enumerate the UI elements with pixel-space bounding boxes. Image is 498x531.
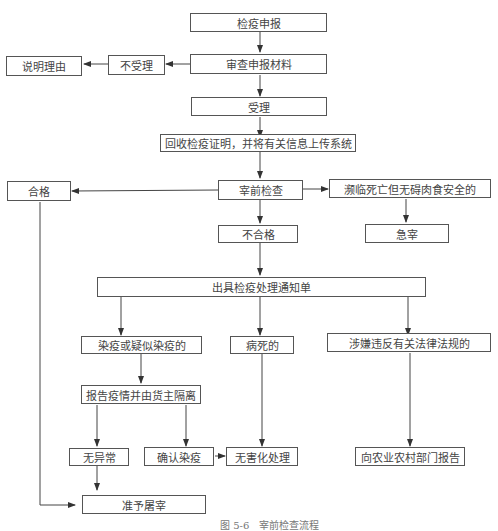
- node-label: 病死的: [246, 337, 279, 353]
- node-near-death: 濒临死亡但无碍肉食安全的: [329, 179, 491, 198]
- node-label: 出具检疫处理通知单: [212, 279, 311, 295]
- node-review: 审查申报材料: [190, 54, 327, 74]
- node-label: 急宰: [396, 226, 418, 242]
- node-notice: 出具检疫处理通知单: [97, 277, 426, 297]
- node-label: 染疫或疑似染疫的: [98, 337, 186, 353]
- node-illegal: 涉嫌违反有关法律法规的: [327, 333, 491, 352]
- node-report-isolate: 报告疫情并由货主隔离: [81, 385, 201, 404]
- node-qualified: 合格: [7, 181, 71, 201]
- node-unqualified: 不合格: [218, 225, 298, 243]
- node-recycle: 回收检疫证明，并将有关信息上传系统: [160, 134, 356, 152]
- node-label: 不受理: [120, 57, 153, 73]
- node-label: 受理: [248, 99, 270, 115]
- node-harmless: 无害化处理: [226, 447, 298, 466]
- node-label: 濒临死亡但无碍肉食安全的: [344, 181, 476, 197]
- node-normal: 无异常: [69, 448, 129, 466]
- node-declare: 检疫申报: [190, 13, 327, 32]
- node-label: 检疫申报: [237, 15, 281, 31]
- node-accept: 受理: [191, 97, 327, 116]
- node-label: 确认染疫: [157, 449, 201, 465]
- node-explain: 说明理由: [6, 56, 82, 76]
- node-dead: 病死的: [230, 336, 294, 354]
- node-label: 审查申报材料: [226, 56, 292, 72]
- node-emergency: 急宰: [365, 224, 449, 243]
- node-label: 不合格: [242, 226, 275, 242]
- node-label: 无异常: [83, 449, 116, 465]
- figure-caption: 图 5-6 宰前检查流程: [220, 517, 319, 531]
- node-label: 说明理由: [22, 58, 66, 74]
- node-label: 向农业农村部门报告: [361, 449, 460, 465]
- node-label: 宰前检查: [239, 182, 283, 198]
- node-slaughter: 准予屠宰: [82, 495, 206, 514]
- node-label: 回收检疫证明，并将有关信息上传系统: [165, 135, 352, 151]
- node-label: 合格: [28, 183, 50, 199]
- node-report-agri: 向农业农村部门报告: [355, 447, 465, 466]
- node-label: 报告疫情并由货主隔离: [86, 387, 196, 403]
- node-reject: 不受理: [108, 55, 165, 75]
- node-label: 准予屠宰: [122, 497, 166, 513]
- node-label: 无害化处理: [235, 449, 290, 465]
- node-pre-inspect: 宰前检查: [218, 180, 303, 200]
- node-infected: 染疫或疑似染疫的: [81, 336, 202, 354]
- node-confirmed: 确认染疫: [144, 447, 214, 466]
- node-label: 涉嫌违反有关法律法规的: [349, 335, 470, 351]
